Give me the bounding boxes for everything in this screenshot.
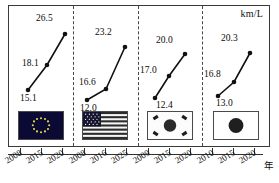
x-axis-unit-year: 年: [264, 158, 274, 172]
x-label-2: 2020: [45, 147, 66, 165]
value-label-jp-2020: 20.3: [221, 34, 238, 44]
eu-flag: [18, 111, 64, 140]
jp-flag: [213, 111, 259, 140]
value-label-usa-2025: 23.2: [95, 28, 112, 38]
value-label-eu-2008: 15.1: [20, 94, 37, 104]
x-label-4: 2016: [88, 147, 109, 165]
x-label-7: 2015: [152, 147, 173, 165]
x-label-6: 2009: [131, 147, 152, 165]
panel-usa: 12.0 16.6 23.2: [73, 6, 138, 146]
value-label-kr-2009: 12.4: [156, 101, 173, 111]
kr-flag: [147, 111, 193, 140]
value-label-kr-2020: 20.0: [156, 36, 173, 46]
value-label-eu-2020: 26.5: [36, 14, 53, 24]
x-label-10: 2015: [216, 147, 237, 165]
plot-frame: km/L 15.1 18.1 26.5: [8, 5, 270, 147]
x-label-1: 2015: [24, 147, 45, 165]
x-label-9: 2010: [195, 147, 216, 165]
panel-south-korea: 12.4 17.0 20.0: [138, 6, 202, 146]
x-label-0: 2008: [3, 147, 24, 165]
panel-japan: 13.0 16.8 20.3: [202, 6, 271, 146]
x-label-11: 2020: [237, 147, 258, 165]
panel-eu: 15.1 18.1 26.5: [9, 6, 73, 146]
value-label-kr-2015: 17.0: [140, 66, 157, 76]
x-label-8: 2020: [173, 147, 194, 165]
value-label-usa-2016: 16.6: [79, 78, 96, 88]
value-label-eu-2015: 18.1: [22, 59, 39, 69]
x-label-5: 2025: [109, 147, 130, 165]
fuel-economy-chart: km/L 15.1 18.1 26.5: [0, 0, 279, 183]
us-flag: [82, 111, 128, 140]
value-label-jp-2015: 16.8: [204, 70, 221, 80]
value-label-jp-2010: 13.0: [216, 99, 233, 109]
x-label-3: 2008: [67, 147, 88, 165]
